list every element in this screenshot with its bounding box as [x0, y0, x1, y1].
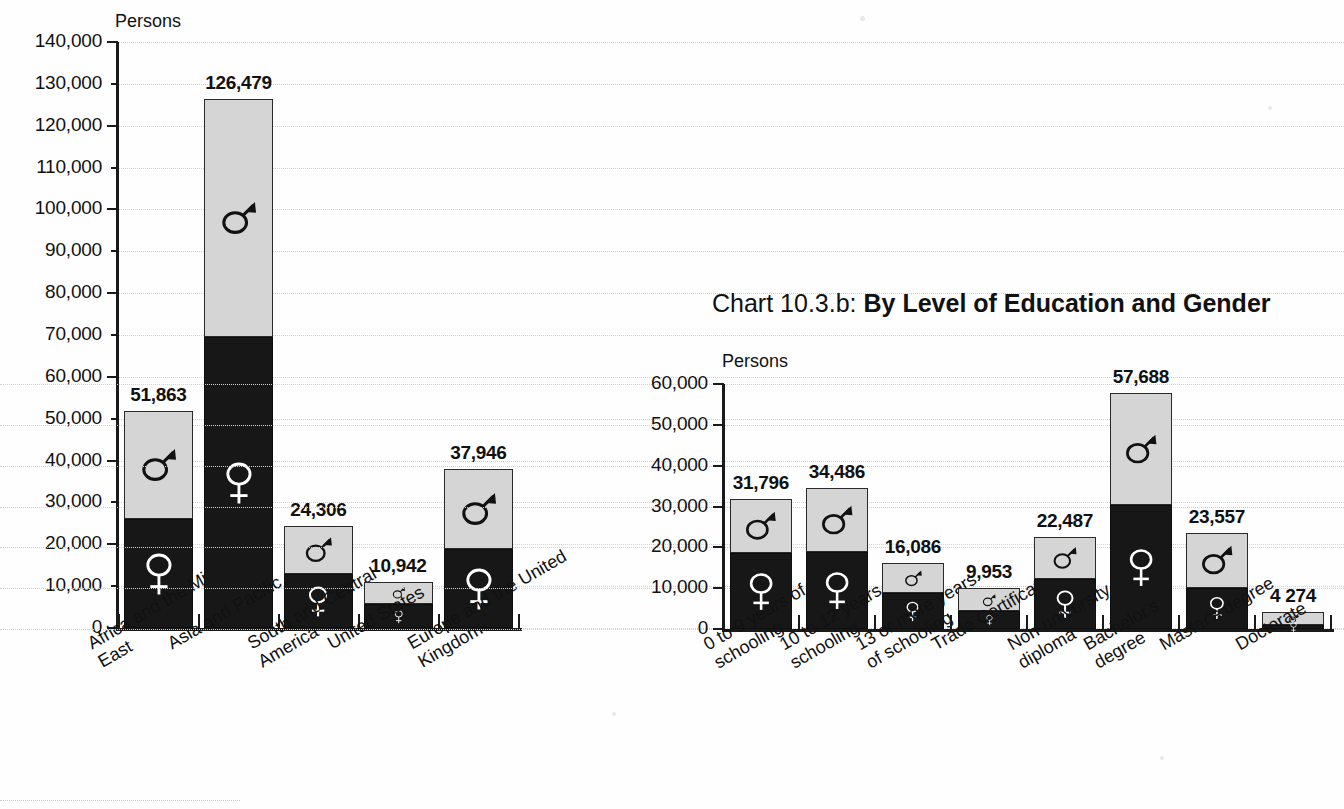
y-axis-tick — [713, 506, 724, 508]
y-axis-label: 60,000 — [624, 372, 708, 394]
chart-b-title-separator: : — [850, 289, 864, 317]
y-axis-label: 30,000 — [624, 495, 708, 517]
bar-value-label: 16,086 — [856, 536, 970, 558]
y-axis-tick — [713, 465, 724, 467]
y-axis-label: 10,000 — [624, 576, 708, 598]
bar-value-label: 22,487 — [1008, 510, 1122, 532]
chart-b-title-number: Chart 10.3.b — [712, 289, 850, 317]
y-axis-tick — [713, 383, 724, 385]
chart-b-y-axis-unit: Persons — [722, 351, 788, 372]
bar-value-label: 23,557 — [1160, 506, 1274, 528]
chart-b-title: Chart 10.3.b: By Level of Education and … — [712, 289, 1271, 318]
bar-segment-male[interactable] — [1186, 533, 1248, 588]
bar-segment-male[interactable] — [1034, 537, 1096, 579]
scanned-chart-page: Persons 010,00020,00030,00040,00050,0006… — [0, 0, 1344, 809]
y-axis-label: 40,000 — [624, 454, 708, 476]
y-axis-tick — [713, 424, 724, 426]
bar-value-label: 57,688 — [1084, 366, 1198, 388]
y-axis-line — [722, 384, 725, 632]
bar-segment-male[interactable] — [730, 499, 792, 553]
y-axis-label: 20,000 — [624, 535, 708, 557]
y-axis-label: 50,000 — [624, 413, 708, 435]
bar-segment-male[interactable] — [1110, 393, 1172, 504]
y-axis-tick — [713, 546, 724, 548]
bar-value-label: 34,486 — [780, 461, 894, 483]
chart-b-title-text: By Level of Education and Gender — [864, 289, 1271, 317]
chart-by-education-and-gender: Chart 10.3.b: By Level of Education and … — [0, 0, 1344, 809]
x-axis-tick — [1330, 615, 1332, 629]
y-axis-tick — [713, 587, 724, 589]
y-axis-label: 0 — [624, 617, 708, 639]
